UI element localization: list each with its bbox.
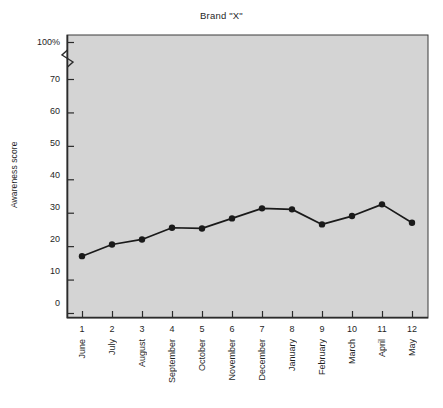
x-tick-month-label-wrap: April — [375, 339, 389, 408]
x-tick-number-label: 5 — [189, 324, 215, 335]
x-tick-number-label: 10 — [339, 324, 365, 335]
x-tick-month-label: April — [377, 339, 388, 357]
x-tick-number-label: 2 — [99, 324, 125, 335]
x-tick-month-label-wrap: May — [405, 339, 419, 408]
x-tick-number-label: 3 — [129, 324, 155, 335]
x-tick-number-label: 4 — [159, 324, 185, 335]
x-tick-month-label: August — [137, 339, 148, 367]
x-tick-month-label: February — [317, 339, 328, 375]
x-tick-month-label: November — [227, 339, 238, 381]
x-tick-month-label: October — [197, 339, 208, 371]
x-tick-month-label: March — [347, 339, 358, 364]
chart-figure: Brand "X" Awareness score 100% 70 60 50 … — [0, 0, 443, 408]
x-tick-month-label: June — [77, 339, 88, 359]
x-tick-month-label-wrap: March — [345, 339, 359, 408]
x-axis-tick-labels: 1June2July3August4September5October6Nove… — [0, 0, 443, 408]
x-tick-month-label-wrap: August — [135, 339, 149, 408]
x-tick-month-label-wrap: September — [165, 339, 179, 408]
x-tick-month-label-wrap: October — [195, 339, 209, 408]
x-tick-month-label: September — [167, 339, 178, 383]
x-tick-month-label: July — [107, 339, 118, 355]
x-tick-month-label-wrap: January — [285, 339, 299, 408]
x-tick-month-label-wrap: July — [105, 339, 119, 408]
x-tick-number-label: 9 — [309, 324, 335, 335]
x-tick-month-label-wrap: June — [75, 339, 89, 408]
x-tick-number-label: 8 — [279, 324, 305, 335]
x-tick-number-label: 6 — [219, 324, 245, 335]
x-tick-month-label-wrap: February — [315, 339, 329, 408]
x-tick-number-label: 12 — [399, 324, 425, 335]
x-tick-number-label: 11 — [369, 324, 395, 335]
x-tick-month-label: December — [257, 339, 268, 381]
x-tick-month-label-wrap: November — [225, 339, 239, 408]
x-tick-month-label: May — [407, 339, 418, 356]
x-tick-month-label-wrap: December — [255, 339, 269, 408]
x-tick-number-label: 1 — [69, 324, 95, 335]
x-tick-number-label: 7 — [249, 324, 275, 335]
x-tick-month-label: January — [287, 339, 298, 371]
